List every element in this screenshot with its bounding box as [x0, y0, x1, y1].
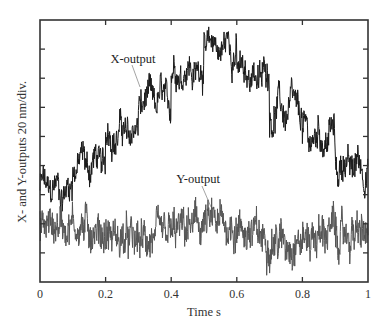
x-output-label: X-output [110, 52, 156, 66]
x-tick-label: 0.6 [229, 287, 244, 301]
x-tick-label: 0 [37, 287, 43, 301]
x-tick-label: 1 [365, 287, 371, 301]
plot-series [40, 27, 368, 275]
y-output-label: Y-output [176, 172, 220, 186]
x-output-leader-line [132, 65, 140, 87]
chart: 00.20.40.60.81 Time s X- and Y-outputs 2… [0, 0, 388, 330]
x-tick-labels: 00.20.40.60.81 [37, 287, 371, 301]
x-tick-label: 0.4 [164, 287, 179, 301]
y-axis-title: X- and Y-outputs 20 nm/div. [15, 81, 29, 223]
x-axis-title: Time s [187, 305, 221, 319]
x-tick-label: 0.2 [98, 287, 113, 301]
x-tick-label: 0.8 [295, 287, 310, 301]
y-output-leader-line [202, 186, 211, 207]
y-output-trace [40, 197, 368, 275]
